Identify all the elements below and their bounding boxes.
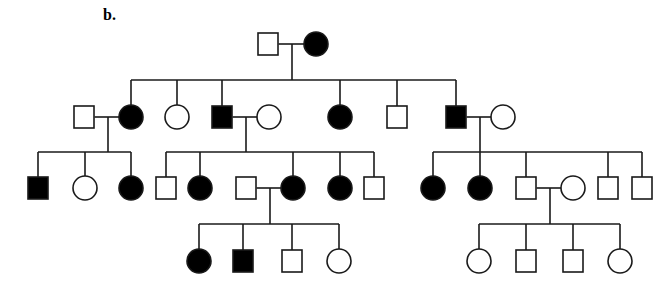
affected-female-symbol [187,249,211,273]
affected-female-symbol [468,176,492,200]
affected-female-symbol [281,176,305,200]
unaffected-male-symbol [156,177,176,199]
affected-female-symbol [421,176,445,200]
unaffected-female-symbol [165,105,189,129]
unaffected-female-symbol [467,249,491,273]
affected-female-symbol [328,176,352,200]
affected-male-symbol [28,177,48,199]
unaffected-male-symbol [364,177,384,199]
unaffected-female-symbol [327,249,351,273]
unaffected-male-symbol [74,106,94,128]
affected-male-symbol [212,106,232,128]
unaffected-male-symbol [387,106,407,128]
affected-male-symbol [233,250,253,272]
unaffected-male-symbol [632,177,652,199]
unaffected-female-symbol [491,105,515,129]
pedigree-diagram [0,0,662,289]
unaffected-female-symbol [73,176,97,200]
unaffected-female-symbol [608,249,632,273]
unaffected-male-symbol [236,177,256,199]
affected-female-symbol [119,105,143,129]
unaffected-female-symbol [257,105,281,129]
affected-female-symbol [188,176,212,200]
pedigree-lines [38,44,642,251]
unaffected-male-symbol [516,250,536,272]
unaffected-male-symbol [258,33,278,55]
affected-male-symbol [446,106,466,128]
affected-female-symbol [304,32,328,56]
affected-female-symbol [328,105,352,129]
unaffected-female-symbol [561,176,585,200]
affected-female-symbol [119,176,143,200]
unaffected-male-symbol [516,177,536,199]
unaffected-male-symbol [598,177,618,199]
unaffected-male-symbol [563,250,583,272]
unaffected-male-symbol [282,250,302,272]
